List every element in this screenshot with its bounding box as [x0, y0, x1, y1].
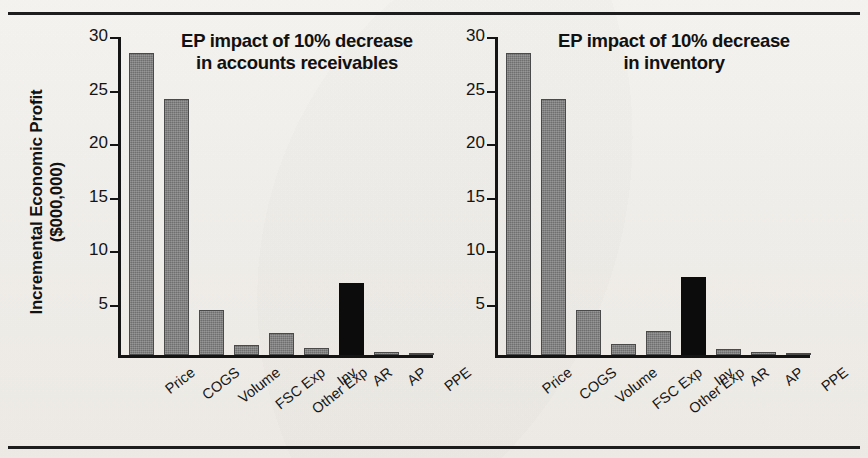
bar-group-left: [124, 37, 433, 355]
y-axis-tick-label: 25: [89, 80, 108, 100]
y-axis-tick: [487, 144, 497, 146]
figure-canvas: Incremental Economic Profit ($000,000) E…: [0, 0, 868, 458]
x-axis-label-cogs: COGS: [576, 364, 620, 403]
bar-fsc-exp: [611, 344, 636, 355]
y-axis-tick: [487, 198, 497, 200]
y-axis-tick: [110, 144, 120, 146]
y-axis-tick-label: 30: [89, 26, 108, 46]
bar-volume: [576, 310, 601, 355]
bar-ppe: [409, 353, 434, 355]
bar-inv: [304, 348, 329, 355]
plot-area-right: 51015202530: [495, 37, 810, 358]
x-axis-label-cogs: COGS: [199, 364, 243, 403]
y-axis-tick-label: 10: [466, 240, 485, 260]
x-axis-label-ap: AP: [781, 364, 806, 389]
y-axis-tick-label: 30: [466, 26, 485, 46]
y-axis-tick-label: 20: [466, 133, 485, 153]
y-axis-tick: [487, 37, 497, 39]
bar-other-exp: [646, 331, 671, 355]
top-rule: [8, 12, 860, 15]
x-axis-label-ppe: PPE: [818, 364, 851, 394]
bar-fsc-exp: [234, 345, 259, 355]
bottom-rule: [8, 446, 860, 449]
y-axis-tick: [487, 91, 497, 93]
y-axis-tick-label: 5: [476, 294, 485, 314]
x-axis-labels-left: PriceCOGSVolumeFSC ExpOther ExpInvARAPPP…: [121, 364, 436, 428]
bar-other-exp: [269, 333, 294, 355]
chart-panel-right: EP impact of 10% decrease in inventory 5…: [455, 28, 815, 428]
x-axis-label-price: Price: [162, 364, 198, 397]
y-axis-title-line1: Incremental Economic Profit: [27, 90, 46, 315]
y-axis-tick: [110, 251, 120, 253]
y-axis-title: Incremental Economic Profit ($000,000): [27, 52, 67, 352]
y-axis-title-line2: ($000,000): [47, 52, 67, 352]
x-axis-label-ar: AR: [369, 364, 395, 389]
y-axis-tick: [110, 305, 120, 307]
y-axis-tick-label: 25: [466, 80, 485, 100]
bar-price: [506, 53, 531, 355]
x-axis-labels-right: PriceCOGSVolumeFSC ExpOther ExpInvARAPPP…: [498, 364, 813, 428]
y-axis-tick-label: 15: [89, 187, 108, 207]
x-axis-label-ap: AP: [404, 364, 429, 389]
bar-ap: [374, 352, 399, 355]
y-axis-tick-label: 15: [466, 187, 485, 207]
x-axis-label-ar: AR: [746, 364, 772, 389]
y-axis-tick: [487, 251, 497, 253]
y-axis-tick: [110, 91, 120, 93]
y-axis-tick-label: 10: [89, 240, 108, 260]
y-axis-tick-label: 20: [89, 133, 108, 153]
bar-price: [129, 53, 154, 355]
bar-cogs: [164, 99, 189, 355]
bar-ap: [751, 352, 776, 355]
bar-group-right: [501, 37, 810, 355]
bar-cogs: [541, 99, 566, 355]
bar-inv: [681, 277, 706, 355]
bar-ppe: [786, 353, 811, 355]
chart-panel-left: EP impact of 10% decrease in accounts re…: [78, 28, 438, 428]
plot-area-left: 51015202530: [118, 37, 433, 358]
y-axis-tick: [110, 198, 120, 200]
bar-ar: [716, 349, 741, 355]
bar-volume: [199, 310, 224, 355]
x-axis-label-price: Price: [539, 364, 575, 397]
bar-ar: [339, 283, 364, 355]
y-axis-tick-label: 5: [99, 294, 108, 314]
y-axis-tick: [110, 37, 120, 39]
y-axis-tick: [487, 305, 497, 307]
